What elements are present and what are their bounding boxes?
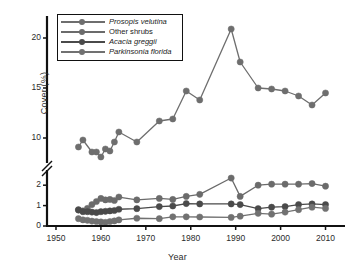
x-tick-label: 1970: [126, 233, 166, 243]
data-point: [228, 175, 234, 181]
data-point: [237, 59, 243, 65]
x-tick-label: 1990: [216, 233, 256, 243]
legend-label: Acacia greggii: [105, 37, 157, 47]
data-point: [116, 206, 122, 212]
x-axis-title: Year: [0, 252, 355, 262]
data-point: [282, 88, 288, 94]
data-point: [183, 88, 189, 94]
y-tick-label: 2: [7, 179, 41, 189]
y-tick-label: 10: [7, 132, 41, 142]
data-point: [295, 207, 301, 213]
data-point: [269, 211, 275, 217]
legend-swatch-acacia-greggii: [61, 37, 105, 47]
data-point: [183, 193, 189, 199]
legend-label: Parkinsonia florida: [105, 47, 171, 57]
data-point: [309, 180, 315, 186]
data-point: [237, 201, 243, 207]
data-point: [197, 214, 203, 220]
legend-item[interactable]: Acacia greggii: [61, 37, 179, 47]
x-tick-label: 2000: [261, 233, 301, 243]
y-tick-label: 15: [7, 82, 41, 92]
data-point: [237, 213, 243, 219]
data-point: [228, 26, 234, 32]
data-point: [116, 129, 122, 135]
data-point: [156, 216, 162, 222]
data-point: [156, 118, 162, 124]
data-point: [156, 195, 162, 201]
x-tick-label: 1960: [81, 233, 121, 243]
data-point: [309, 102, 315, 108]
data-point: [170, 196, 176, 202]
data-point: [183, 200, 189, 206]
data-point: [295, 181, 301, 187]
y-tick-label: 20: [7, 32, 41, 42]
data-point: [116, 194, 122, 200]
data-point: [322, 205, 328, 211]
x-tick-label: 1980: [171, 233, 211, 243]
data-point: [255, 182, 261, 188]
data-point: [111, 139, 117, 145]
data-point: [134, 139, 140, 145]
data-point: [156, 204, 162, 210]
data-point: [269, 86, 275, 92]
x-tick-label: 2010: [306, 233, 346, 243]
data-point: [269, 181, 275, 187]
y-tick-label: 1: [7, 200, 41, 210]
data-point: [237, 193, 243, 199]
data-point: [197, 201, 203, 207]
legend-label: Prosopis velutina: [105, 17, 167, 27]
data-point: [282, 181, 288, 187]
y-axis-title: Cover (%): [39, 54, 49, 132]
figure-container: Cover (%) Year 201510210 195019601970198…: [0, 0, 355, 277]
legend-swatch-parkinsonia-florida: [61, 47, 105, 57]
data-point: [170, 116, 176, 122]
data-point: [98, 154, 104, 160]
data-point: [255, 85, 261, 91]
legend-item[interactable]: Other shrubs: [61, 27, 179, 37]
data-point: [322, 90, 328, 96]
legend-item[interactable]: Prosopis velutina: [61, 17, 179, 27]
data-point: [80, 137, 86, 143]
data-point: [183, 214, 189, 220]
legend-label: Other shrubs: [105, 27, 153, 37]
data-point: [134, 197, 140, 203]
data-point: [322, 183, 328, 189]
data-point: [197, 97, 203, 103]
legend-item[interactable]: Parkinsonia florida: [61, 47, 179, 57]
data-point: [228, 201, 234, 207]
chart-legend: Prosopis velutina Other shrubs Acacia gr…: [57, 14, 183, 61]
data-point: [282, 209, 288, 215]
data-point: [107, 148, 113, 154]
y-tick-label: 0: [7, 220, 41, 230]
data-point: [228, 214, 234, 220]
data-point: [269, 204, 275, 210]
data-point: [170, 214, 176, 220]
data-point: [75, 144, 81, 150]
data-point: [93, 149, 99, 155]
data-point: [170, 203, 176, 209]
x-tick-label: 1950: [36, 233, 76, 243]
data-point: [309, 204, 315, 210]
data-point: [255, 210, 261, 216]
data-point: [197, 191, 203, 197]
legend-swatch-prosopis-velutina: [61, 17, 105, 27]
data-point: [116, 217, 122, 223]
data-point: [134, 215, 140, 221]
data-point: [134, 206, 140, 212]
legend-swatch-other-shrubs: [61, 27, 105, 37]
data-point: [295, 93, 301, 99]
